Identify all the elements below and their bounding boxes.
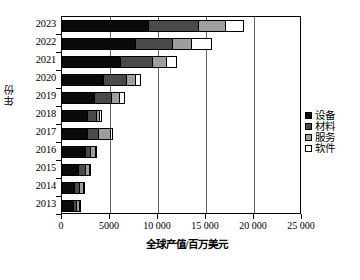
y-tick-label: 2014 [16, 181, 56, 191]
bar-row [62, 92, 125, 104]
x-tick-label: 5000 [99, 220, 119, 231]
bar-segment [166, 56, 177, 68]
bar-segment [135, 74, 141, 86]
bar-segment [120, 56, 153, 68]
bar-segment [62, 146, 86, 158]
x-tick-mark [109, 214, 110, 219]
bar-row [62, 56, 177, 68]
bar-segment [62, 92, 95, 104]
y-tick-label: 2022 [16, 37, 56, 47]
bar-segment [62, 110, 88, 122]
bar-segment [119, 92, 126, 104]
x-tick-mark [301, 214, 302, 219]
legend-swatch-icon [305, 112, 312, 119]
bar-segment [62, 128, 88, 140]
bar-segment [103, 74, 127, 86]
bar-row [62, 128, 113, 140]
legend-item: 材料 [305, 121, 335, 132]
legend-label: 服务 [315, 132, 335, 143]
y-axis-title: 年份 [2, 84, 16, 130]
bar-segment [94, 92, 112, 104]
stacked-bar-chart: 年份 2023202220212020201920182017201620152… [0, 0, 360, 280]
x-tick-label: 20 000 [239, 220, 267, 231]
bar-segment [191, 38, 211, 50]
y-tick-label: 2020 [16, 73, 56, 83]
bar-segment [62, 56, 121, 68]
bar-row [62, 38, 212, 50]
bar-segment [152, 56, 168, 68]
bar-segment [79, 200, 81, 212]
plot-area [61, 16, 301, 214]
chart-legend: 设备材料服务软件 [305, 110, 335, 154]
bar-row [62, 74, 141, 86]
x-tick-label: 25 000 [287, 220, 315, 231]
bar-segment [62, 164, 79, 176]
bar-segment [83, 182, 85, 194]
legend-swatch-icon [305, 123, 312, 130]
legend-swatch-icon [305, 134, 312, 141]
y-tick-label: 2017 [16, 127, 56, 137]
bar-segment [62, 20, 149, 32]
legend-item: 软件 [305, 143, 335, 154]
bar-row [62, 20, 244, 32]
y-tick-label: 2016 [16, 145, 56, 155]
x-tick-label: 10 000 [143, 220, 171, 231]
bar-segment [62, 38, 136, 50]
legend-item: 设备 [305, 110, 335, 121]
bar-segment [95, 146, 97, 158]
legend-label: 设备 [315, 110, 335, 121]
bar-segment [172, 38, 192, 50]
x-tick-mark [157, 214, 158, 219]
bar-segment [225, 20, 244, 32]
bar-segment [135, 38, 173, 50]
bar-segment [198, 20, 226, 32]
x-axis-title: 全球产值/百万美元 [0, 236, 360, 251]
bar-segment [89, 164, 91, 176]
legend-label: 软件 [315, 143, 335, 154]
bar-row [62, 146, 97, 158]
y-tick-label: 2013 [16, 199, 56, 209]
bar-segment [62, 182, 75, 194]
bar-segment [148, 20, 199, 32]
legend-item: 服务 [305, 132, 335, 143]
y-tick-label: 2015 [16, 163, 56, 173]
y-tick-label: 2023 [16, 19, 56, 29]
x-tick-mark [205, 214, 206, 219]
bar-row [62, 110, 102, 122]
bar-row [62, 200, 81, 212]
x-axis-title-text: 全球产值/百万美元 [146, 236, 229, 251]
x-tick-mark [61, 214, 62, 219]
bar-segment [99, 110, 102, 122]
legend-label: 材料 [315, 121, 335, 132]
legend-swatch-icon [305, 145, 312, 152]
y-tick-label: 2018 [16, 109, 56, 119]
bar-segment [110, 128, 113, 140]
x-tick-label: 0 [59, 220, 64, 231]
x-tick-label: 15 000 [191, 220, 219, 231]
bar-row [62, 164, 91, 176]
bar-row [62, 182, 85, 194]
y-axis-title-text: 年份 [2, 84, 17, 106]
y-tick-label: 2019 [16, 91, 56, 101]
bar-segment [62, 74, 104, 86]
y-tick-label: 2021 [16, 55, 56, 65]
x-tick-mark [253, 214, 254, 219]
bar-series-container [62, 17, 300, 213]
